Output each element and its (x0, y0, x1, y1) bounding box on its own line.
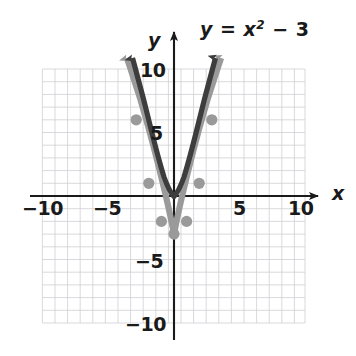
y-tick-label-10: 10 (140, 61, 165, 80)
equation-minus: − (272, 18, 288, 40)
coordinate-plane-svg (0, 0, 356, 356)
equation-equals: = (220, 18, 236, 40)
x-tick-label-10: 10 (288, 199, 313, 218)
data-point (156, 216, 167, 227)
equation-y: y (200, 18, 213, 40)
x-tick-label-neg-5: −5 (93, 199, 121, 218)
data-point (168, 229, 179, 240)
x-axis-label: x (332, 184, 344, 203)
y-axis-label: y (148, 31, 160, 50)
y-tick-label-neg-5: −5 (135, 252, 163, 271)
x-tick-label-neg-10: −10 (22, 199, 63, 218)
data-point (143, 178, 154, 189)
graph-figure: y = x2 − 3 y x −10 −5 5 10 10 5 −5 −10 (0, 0, 356, 356)
axes (30, 32, 318, 340)
data-point (131, 114, 142, 125)
x-tick-label-5: 5 (233, 199, 246, 218)
equation-exponent: 2 (256, 18, 265, 32)
equation-x: x (244, 18, 257, 40)
y-tick-label-5: 5 (150, 124, 163, 143)
equation-constant: 3 (296, 18, 310, 40)
data-point (194, 178, 205, 189)
data-point (181, 216, 192, 227)
equation-label: y = x2 − 3 (200, 20, 310, 39)
y-tick-label-neg-10: −10 (125, 315, 166, 334)
data-point (206, 114, 217, 125)
